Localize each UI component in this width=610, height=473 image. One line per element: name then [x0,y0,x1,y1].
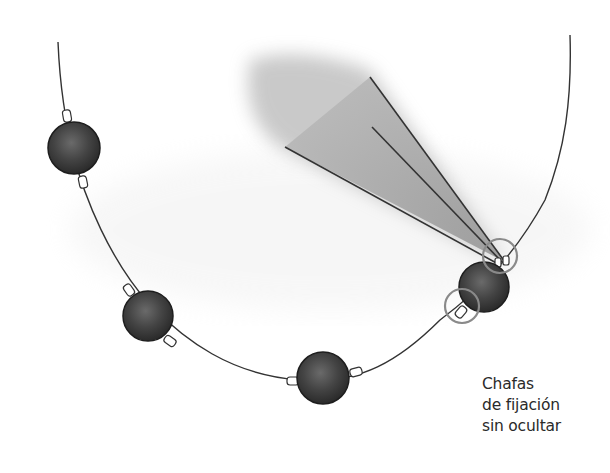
background-shading [70,150,590,310]
caption-line-1: Chafas [482,374,561,395]
caption-line-3: sin ocultar [482,416,561,437]
bead-2 [123,291,173,341]
caption: Chafas de fijación sin ocultar [482,374,561,437]
bead-4 [459,262,509,312]
bead-3 [297,352,349,404]
illustration-stage: Chafas de fijación sin ocultar [0,0,610,473]
bead-1 [48,122,100,174]
caption-line-2: de fijación [482,395,561,416]
